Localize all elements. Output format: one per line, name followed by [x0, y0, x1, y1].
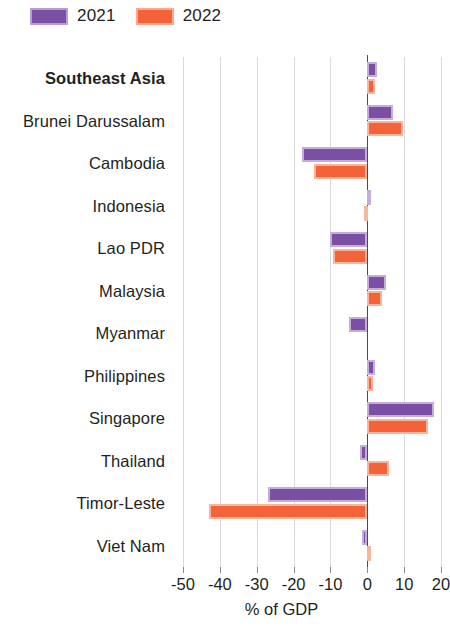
x-axis-tick-label: -50	[171, 575, 195, 594]
bar-2021	[302, 147, 367, 162]
bar-2021	[268, 487, 368, 502]
gridline	[441, 57, 442, 567]
bar-2022	[367, 419, 428, 434]
bar-2022	[367, 461, 389, 476]
category-label: Cambodia	[89, 154, 165, 173]
legend-entry-2021: 2021	[30, 6, 116, 26]
x-axis-tick-label: -40	[208, 575, 232, 594]
category-axis-labels: Southeast AsiaBrunei DarussalamCambodiaI…	[0, 57, 174, 567]
legend-entry-2022: 2022	[136, 6, 222, 26]
bar-2021	[367, 360, 374, 375]
bar-group	[183, 142, 441, 185]
x-axis-tick-label: -10	[318, 575, 342, 594]
legend-swatch-2022	[136, 8, 174, 25]
category-label: Brunei Darussalam	[23, 111, 165, 130]
bar-group	[183, 525, 441, 568]
category-label: Thailand	[101, 451, 165, 470]
legend-label-2021: 2021	[77, 6, 116, 26]
bar-2021	[362, 530, 368, 545]
bar-2021	[367, 62, 377, 77]
x-axis-title-text: % of GDP	[125, 600, 318, 619]
bar-2022	[314, 164, 367, 179]
bar-group	[183, 185, 441, 228]
category-label: Timor-Leste	[76, 494, 165, 513]
category-label: Philippines	[84, 366, 165, 385]
x-axis-tick	[367, 567, 368, 573]
bar-group	[183, 100, 441, 143]
category-label: Malaysia	[99, 281, 165, 300]
bar-2022	[367, 291, 382, 306]
bar-2021	[349, 317, 367, 332]
bar-2022	[364, 206, 368, 221]
bar-2022	[367, 546, 371, 561]
bar-2022	[367, 376, 373, 391]
x-axis-tick	[404, 567, 405, 573]
bar-2021	[330, 232, 367, 247]
category-label: Myanmar	[96, 324, 165, 343]
category-label: Lao PDR	[97, 239, 165, 258]
bar-2022	[367, 79, 374, 94]
x-axis-tick	[183, 567, 184, 573]
category-label: Singapore	[89, 409, 165, 428]
x-axis-tick	[257, 567, 258, 573]
category-label: Southeast Asia	[45, 69, 165, 88]
bar-group	[183, 270, 441, 313]
bar-2022	[209, 504, 367, 519]
x-axis-tick-label: 0	[363, 575, 372, 594]
x-axis-tick	[220, 567, 221, 573]
bar-group	[183, 57, 441, 100]
bar-2021	[360, 445, 367, 460]
category-label: Indonesia	[93, 196, 165, 215]
bar-2021	[367, 190, 371, 205]
bar-2022	[367, 121, 402, 136]
bar-2021	[367, 275, 385, 290]
category-label: Viet Nam	[97, 536, 165, 555]
bar-group	[183, 397, 441, 440]
x-axis-tick	[294, 567, 295, 573]
chart-legend: 2021 2022	[30, 6, 221, 26]
legend-label-2022: 2022	[183, 6, 222, 26]
bar-2021	[367, 105, 393, 120]
bar-group	[183, 355, 441, 398]
plot-area	[183, 57, 441, 567]
x-axis-tick-label: -20	[282, 575, 306, 594]
legend-swatch-2021	[30, 8, 68, 25]
bar-2022	[333, 249, 368, 264]
x-axis-tick-label: -30	[245, 575, 269, 594]
bar-group	[183, 312, 441, 355]
x-axis-tick-label: 20	[432, 575, 450, 594]
x-axis-tick	[330, 567, 331, 573]
bar-group	[183, 440, 441, 483]
x-axis-tick-label: 10	[395, 575, 413, 594]
bar-2021	[367, 402, 434, 417]
bar-group	[183, 227, 441, 270]
x-axis-title: % of GDP	[0, 600, 443, 619]
bar-group	[183, 482, 441, 525]
x-axis-tick	[441, 567, 442, 573]
